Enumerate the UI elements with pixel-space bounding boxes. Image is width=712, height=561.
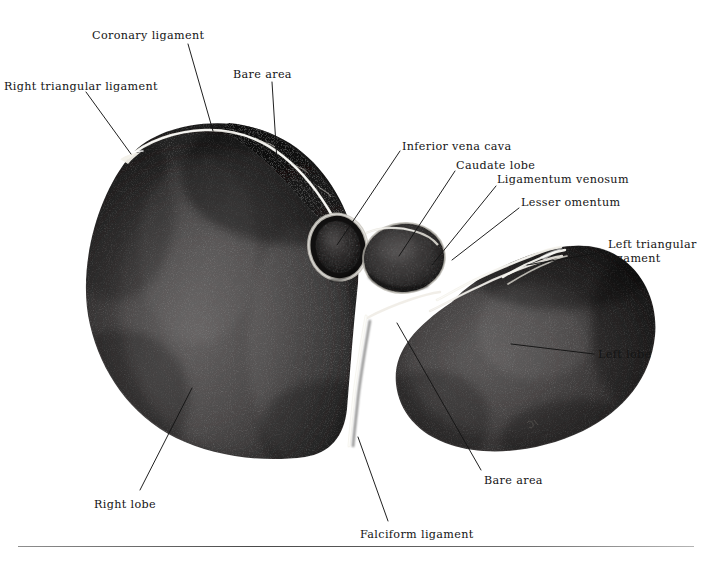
label-left-triangular-ligament: Left triangular ligament (608, 238, 708, 265)
label-right-lobe: Right lobe (94, 498, 156, 512)
footer-rule (18, 546, 694, 547)
label-falciform-ligament: Falciform ligament (360, 528, 474, 542)
anatomical-figure: Right triangular ligament Coronary ligam… (0, 0, 712, 561)
label-coronary-ligament: Coronary ligament (92, 29, 204, 43)
label-inferior-vena-cava: Inferior vena cava (402, 140, 512, 154)
label-bare-area-top: Bare area (233, 68, 292, 82)
label-left-lobe: Left lobe (598, 348, 652, 362)
label-caudate-lobe: Caudate lobe (456, 159, 535, 173)
label-lesser-omentum: Lesser omentum (521, 196, 620, 210)
label-right-triangular-ligament: Right triangular ligament (4, 80, 158, 94)
label-bare-area-bottom: Bare area (484, 474, 543, 488)
label-ligamentum-venosum: Ligamentum venosum (497, 173, 629, 187)
